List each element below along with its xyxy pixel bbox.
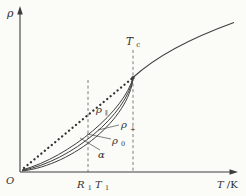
x-axis-label: T /K bbox=[217, 179, 238, 190]
y-axis-label: ρ bbox=[6, 7, 14, 20]
rho-perp-label: ρ ⊥ bbox=[120, 119, 136, 131]
origin-label: O bbox=[6, 175, 14, 186]
alpha-label: α bbox=[98, 149, 105, 160]
resistivity-temperature-figure: ρ T /K O T c R 1 T 1 ρ ∥ ρ ⊥ bbox=[0, 0, 246, 196]
x-axis-arrowhead-icon bbox=[230, 169, 239, 175]
tc-junction-point bbox=[131, 76, 134, 79]
rho-zero-label: ρ 0 bbox=[111, 135, 125, 148]
leader-line-alpha bbox=[80, 138, 100, 150]
figure-canvas: ρ T /K O T c R 1 T 1 ρ ∥ ρ ⊥ bbox=[0, 0, 246, 196]
rho-parallel-label: ρ ∥ bbox=[95, 104, 108, 116]
tc-label: T c bbox=[126, 35, 140, 49]
x-tick-label: R 1 T 1 bbox=[76, 179, 109, 192]
curve-above-tc bbox=[133, 23, 234, 78]
dotted-extrapolation-line bbox=[24, 79, 132, 169]
y-axis-arrowhead-icon bbox=[17, 6, 23, 15]
